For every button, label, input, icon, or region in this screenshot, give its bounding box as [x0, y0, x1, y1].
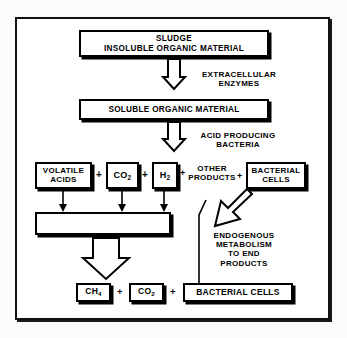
box-co2-middle-label: CO — [113, 170, 127, 180]
box-ch4-bottom: CH4 — [76, 283, 111, 302]
box-bacterial-cells-middle-line2: CELLS — [252, 176, 301, 185]
box-co2-bottom-subscript: 2 — [151, 290, 155, 297]
operator-plus-4: + — [237, 172, 242, 181]
box-ch4-bottom-label: CH — [85, 286, 98, 296]
box-co2-middle-subscript: 2 — [128, 174, 132, 181]
box-h2-middle-subscript: 2 — [166, 174, 170, 181]
box-co2-bottom-label: CO — [138, 286, 151, 296]
label-other-products-line1: OTHER — [186, 164, 238, 173]
label-acid-producing-bacteria: ACID PRODUCING BACTERIA — [186, 131, 290, 149]
box-ch4-bottom-subscript: 4 — [98, 290, 102, 297]
box-co2-bottom: CO2 — [129, 283, 164, 302]
box-sludge: SLUDGE INSOLUBLE ORGANIC MATERIAL — [79, 30, 269, 57]
label-endogenous-metabolism: ENDOGENOUS METABOLISM TO END PRODUCTS — [196, 231, 292, 268]
operator-plus-6: + — [170, 287, 176, 297]
label-acid-producing-bacteria-line1: ACID PRODUCING — [186, 131, 290, 140]
operator-plus-1: + — [96, 170, 102, 180]
label-extracellular-enzymes-line1: EXTRACELLULAR — [186, 70, 292, 79]
box-bacterial-cells-bottom-label: BACTERIAL CELLS — [196, 288, 280, 298]
box-bacterial-cells-bottom: BACTERIAL CELLS — [183, 283, 293, 302]
diagram-canvas: SLUDGE INSOLUBLE ORGANIC MATERIAL EXTRAC… — [0, 0, 347, 338]
box-volatile-acids: VOLATILE ACIDS — [35, 162, 92, 189]
box-collector — [35, 212, 171, 235]
operator-plus-5: + — [117, 287, 123, 297]
box-volatile-acids-line2: ACIDS — [43, 176, 84, 185]
box-co2-middle: CO2 — [106, 162, 139, 189]
box-h2-middle: H2 — [152, 162, 178, 189]
operator-plus-3: + — [180, 169, 185, 178]
label-extracellular-enzymes: EXTRACELLULAR ENZYMES — [186, 70, 292, 88]
box-soluble-organic-material-line1: SOLUBLE ORGANIC MATERIAL — [108, 105, 239, 114]
box-bacterial-cells-middle: BACTERIAL CELLS — [246, 162, 306, 189]
label-acid-producing-bacteria-line2: BACTERIA — [186, 140, 290, 149]
label-extracellular-enzymes-line2: ENZYMES — [186, 79, 292, 88]
label-endogenous-metabolism-line2: METABOLISM — [196, 240, 292, 249]
label-other-products: OTHER PRODUCTS — [186, 164, 238, 182]
box-soluble-organic-material: SOLUBLE ORGANIC MATERIAL — [79, 99, 269, 120]
label-endogenous-metabolism-line3: TO END — [196, 249, 292, 258]
label-endogenous-metabolism-line1: ENDOGENOUS — [196, 231, 292, 240]
label-endogenous-metabolism-line4: PRODUCTS — [196, 259, 292, 268]
label-other-products-line2: PRODUCTS — [186, 173, 238, 182]
box-sludge-line2: INSOLUBLE ORGANIC MATERIAL — [104, 44, 244, 53]
operator-plus-2: + — [142, 170, 148, 180]
box-sludge-line1: SLUDGE — [104, 34, 244, 43]
